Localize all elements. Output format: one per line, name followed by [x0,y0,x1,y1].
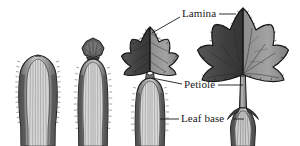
leaf-illustration [0,0,300,146]
label-leaf-base: Leaf base [181,113,224,124]
stage-4-mature-leaf [198,8,289,146]
stage-2-leaf-with-emerging-lamina-bud [74,38,112,146]
stage-4-lamina [198,8,289,81]
stage-3-leaf-base [131,78,169,146]
leaf-development-figure: Lamina Petiole Leaf base [0,0,300,146]
leader-lamina-left [152,17,180,33]
stage-3-leaf-with-expanding-lamina [122,27,179,146]
label-lamina: Lamina [182,8,216,19]
stage-4-petiole [240,76,247,108]
stage-3-lamina [122,27,179,75]
label-petiole: Petiole [184,79,215,90]
stage-2-lamina-bud [82,38,104,60]
stage-1-youngest-leaf-sheath [15,55,60,146]
stage-4-leaf-base [228,108,259,146]
